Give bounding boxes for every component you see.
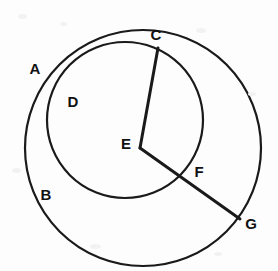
point-label-c: C (151, 27, 162, 42)
figure-canvas (0, 0, 278, 271)
point-label-e: E (121, 136, 131, 151)
point-label-g: G (245, 216, 257, 231)
segment-e-to-c (140, 48, 158, 148)
point-label-b: B (41, 187, 52, 202)
outer-circle (25, 30, 261, 266)
segment-e-to-g (140, 148, 240, 219)
geometry-figure: A C D E B F G (0, 0, 278, 271)
point-label-a: A (30, 61, 41, 76)
point-label-d: D (68, 94, 79, 109)
point-label-f: F (194, 164, 203, 179)
